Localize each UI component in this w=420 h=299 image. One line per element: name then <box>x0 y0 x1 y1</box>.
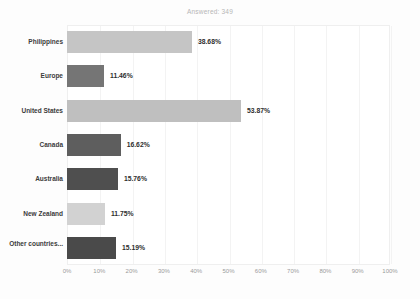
category-label: Philippines <box>0 38 63 46</box>
x-tick-label: 70% <box>287 268 299 274</box>
category-label: New Zealand <box>0 210 63 218</box>
bar-value-label: 11.46% <box>110 72 133 79</box>
chart-title: Answered: 349 <box>0 8 420 15</box>
bar[interactable] <box>67 237 116 259</box>
category-label: United States <box>0 107 63 115</box>
x-tick-label: 50% <box>222 268 234 274</box>
category-label: Canada <box>0 141 63 149</box>
bar-value-label: 15.19% <box>122 244 145 251</box>
bar[interactable] <box>67 100 241 122</box>
x-axis: 0%10%20%30%40%50%60%70%80%90%100% <box>67 268 390 280</box>
x-tick-label: 100% <box>382 268 397 274</box>
x-tick-label: 20% <box>126 268 138 274</box>
category-label: Europe <box>0 72 63 80</box>
x-tick-label: 10% <box>93 268 105 274</box>
bar[interactable] <box>67 134 121 156</box>
bar[interactable] <box>67 65 104 87</box>
x-tick-label: 30% <box>158 268 170 274</box>
x-tick-label: 80% <box>319 268 331 274</box>
x-tick-label: 40% <box>190 268 202 274</box>
bar[interactable] <box>67 168 118 190</box>
x-tick-label: 0% <box>63 268 72 274</box>
bar-value-label: 53.87% <box>247 107 270 114</box>
x-tick-label: 60% <box>255 268 267 274</box>
bar-rows-container: Philippines38.68%Europe11.46%United Stat… <box>0 25 420 265</box>
x-tick-label: 90% <box>352 268 364 274</box>
category-label: Other countries... <box>0 240 63 248</box>
bar-value-label: 16.62% <box>127 141 150 148</box>
bar-chart: Answered: 349 Philippines38.68%Europe11.… <box>0 0 420 299</box>
bar-value-label: 15.76% <box>124 175 147 182</box>
category-label: Australia <box>0 175 63 183</box>
bar-value-label: 11.75% <box>111 210 134 217</box>
bar[interactable] <box>67 203 105 225</box>
bar[interactable] <box>67 31 192 53</box>
bar-value-label: 38.68% <box>198 38 221 45</box>
